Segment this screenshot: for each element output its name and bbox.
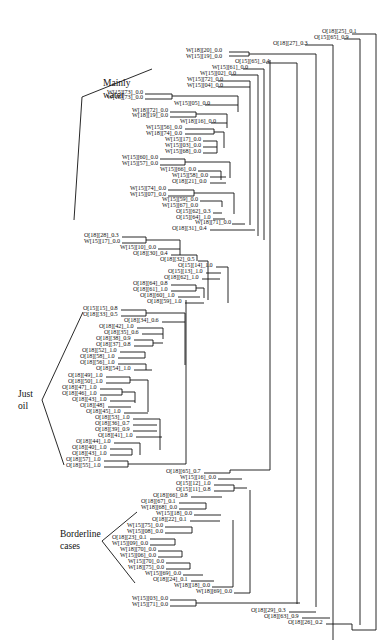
leaf-label: W[18][69]_0.0 [196,588,232,595]
dendrogram-branches [0,0,391,644]
leaf-label: W[15][71]_0.0 [132,601,168,608]
dendrogram: Mainly water Just oil Borderline cases O… [0,0,391,644]
leaf-label: O[18][26]_0.2 [288,619,323,626]
group-label-line: Borderline [60,528,101,540]
group-label-line: Just [18,388,33,400]
leaf-label: W[15][05]_0.0 [174,100,210,107]
group-label-line: cases [60,540,101,552]
leaf-label: W[15][68]_0.0 [165,148,201,155]
group-label-borderline: Borderline cases [60,528,101,552]
leaf-label: W[18][19]_0.0 [132,112,168,119]
leaf-label: O[18][33]_0.5 [83,311,118,318]
leaf-label: W[15][19]_0.0 [186,53,222,60]
leaf-label: W[15][04]_0.0 [187,82,223,89]
leaf-label: W[18][16]_0.0 [180,118,216,125]
leaf-label: W[18][73]_0.0 [107,94,143,101]
leaf-label: O[18][55]_1.0 [66,462,101,469]
leaf-label: O[18][62]_1.0 [164,274,199,281]
leaf-label: O[18][21]_0.0 [172,178,207,185]
group-label-just-oil: Just oil [18,388,33,412]
leaf-label: W[15][17]_0.0 [84,238,120,245]
leaf-label: W[15][57]_0.0 [122,160,158,167]
leaf-label: O[15][65]_0.9 [314,34,349,41]
leaf-label: O[18][27]_0.3 [273,40,308,47]
leaf-label: O[18][59]_1.0 [147,298,182,305]
leaf-label: W[15][07]_0.0 [130,191,166,198]
group-label-line: oil [18,400,33,412]
leaf-label: O[18][31]_0.4 [172,225,207,232]
